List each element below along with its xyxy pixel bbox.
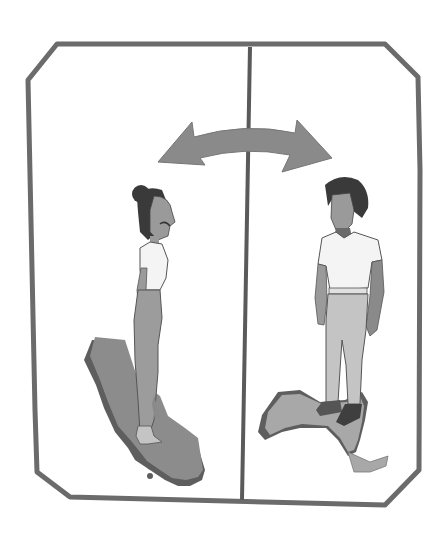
man-figure bbox=[315, 177, 384, 426]
illustration-svg bbox=[0, 0, 447, 535]
woman-figure bbox=[132, 185, 175, 444]
illustration-canvas bbox=[0, 0, 447, 535]
divider-line bbox=[242, 47, 250, 500]
double-arrow-icon bbox=[158, 120, 332, 172]
